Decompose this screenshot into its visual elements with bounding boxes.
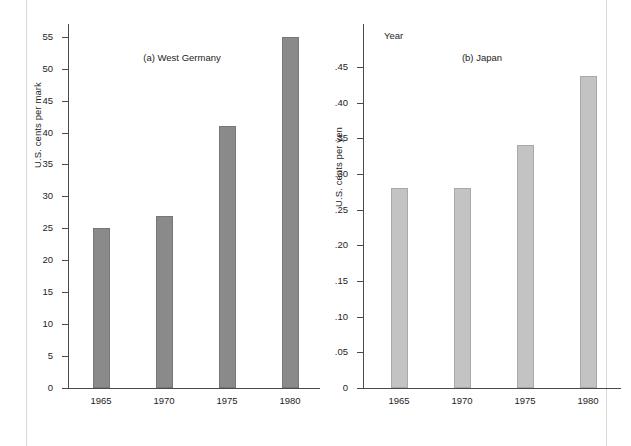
- y-axis-title-west-germany: U.S. cents per mark: [32, 20, 43, 230]
- y-tick-label-japan-5: .25: [335, 205, 348, 215]
- y-tick-label-japan-1: .05: [335, 348, 348, 358]
- y-tick-label-west-germany-6: 30: [42, 192, 53, 202]
- bar-japan-1980: [580, 76, 597, 388]
- y-tick-label-west-germany-10: 50: [42, 64, 53, 74]
- y-tick-label-west-germany-2: 10: [42, 319, 53, 329]
- y-tick-japan-3: .15: [357, 281, 364, 282]
- y-tick-japan-9: .45: [357, 67, 364, 68]
- y-tick-west-germany-7: 35: [62, 164, 69, 165]
- bar-japan-1965: [391, 188, 408, 388]
- y-tick-label-west-germany-5: 25: [42, 224, 53, 234]
- y-tick-label-west-germany-4: 20: [42, 256, 53, 266]
- y-tick-label-japan-4: .20: [335, 241, 348, 251]
- y-tick-japan-1: .05: [357, 352, 364, 353]
- bar-west-germany-1965: [93, 228, 110, 388]
- x-tick-label-japan-1980: 1980: [577, 396, 598, 406]
- plot-area-west-germany: 0510152025303540455055 1965197019751980 …: [68, 24, 296, 389]
- chart-panel-west-germany: U.S. cents per mark 05101520253035404550…: [10, 0, 315, 446]
- y-tick-label-west-germany-11: 55: [42, 32, 53, 42]
- y-tick-label-west-germany-3: 15: [42, 287, 53, 297]
- y-tick-japan-2: .10: [357, 317, 364, 318]
- y-tick-label-japan-8: .40: [335, 98, 348, 108]
- bar-west-germany-1970: [156, 216, 173, 388]
- y-tick-japan-4: .20: [357, 245, 364, 246]
- y-tick-west-germany-5: 25: [62, 228, 69, 229]
- plot-area-japan: 0.05.10.15.20.25.30.35.40.45 19651970197…: [363, 24, 601, 389]
- y-tick-label-west-germany-1: 5: [48, 351, 53, 361]
- x-axis-line-japan: [363, 388, 621, 389]
- y-axis-line-japan: [363, 24, 364, 389]
- y-tick-west-germany-8: 40: [62, 133, 69, 134]
- y-tick-label-japan-3: .15: [335, 276, 348, 286]
- y-tick-west-germany-10: 50: [62, 69, 69, 70]
- x-tick-label-west-germany-1980: 1980: [279, 396, 300, 406]
- x-tick-label-west-germany-1975: 1975: [216, 396, 237, 406]
- y-tick-label-west-germany-7: 35: [42, 160, 53, 170]
- y-tick-japan-8: .40: [357, 103, 364, 104]
- y-tick-west-germany-6: 30: [62, 196, 69, 197]
- x-tick-label-japan-1975: 1975: [514, 396, 535, 406]
- y-tick-label-japan-2: .10: [335, 312, 348, 322]
- y-tick-label-japan-6: .30: [335, 169, 348, 179]
- y-tick-west-germany-9: 45: [62, 101, 69, 102]
- y-tick-japan-5: .25: [357, 210, 364, 211]
- chart-panel-japan: U.S. cents per yen 0.05.10.15.20.25.30.3…: [315, 0, 620, 446]
- bar-japan-1970: [454, 188, 471, 388]
- y-tick-label-japan-0: 0: [343, 383, 348, 393]
- panel-caption-west-germany: (a) West Germany: [68, 52, 296, 63]
- bar-japan-1975: [517, 145, 534, 388]
- x-tick-label-west-germany-1965: 1965: [90, 396, 111, 406]
- y-tick-west-germany-0: 0: [62, 388, 69, 389]
- panel-caption-japan: (b) Japan: [363, 52, 601, 63]
- y-tick-label-japan-7: .35: [335, 133, 348, 143]
- x-tick-label-japan-1970: 1970: [451, 396, 472, 406]
- y-tick-label-japan-9: .45: [335, 62, 348, 72]
- y-tick-west-germany-2: 10: [62, 324, 69, 325]
- y-tick-label-west-germany-8: 40: [42, 128, 53, 138]
- y-tick-west-germany-11: 55: [62, 37, 69, 38]
- y-axis-line-west-germany: [68, 24, 69, 389]
- y-tick-japan-0: 0: [357, 388, 364, 389]
- y-tick-west-germany-4: 20: [62, 260, 69, 261]
- x-tick-label-japan-1965: 1965: [388, 396, 409, 406]
- x-tick-label-west-germany-1970: 1970: [153, 396, 174, 406]
- y-tick-label-west-germany-0: 0: [48, 383, 53, 393]
- bar-west-germany-1975: [219, 126, 236, 388]
- bar-west-germany-1980: [282, 37, 299, 388]
- x-axis-line-west-germany: [68, 388, 320, 389]
- figure-page: U.S. cents per mark 05101520253035404550…: [0, 0, 631, 446]
- y-tick-japan-7: .35: [357, 138, 364, 139]
- y-tick-label-west-germany-9: 45: [42, 96, 53, 106]
- y-tick-west-germany-1: 5: [62, 356, 69, 357]
- y-tick-japan-6: .30: [357, 174, 364, 175]
- y-tick-west-germany-3: 15: [62, 292, 69, 293]
